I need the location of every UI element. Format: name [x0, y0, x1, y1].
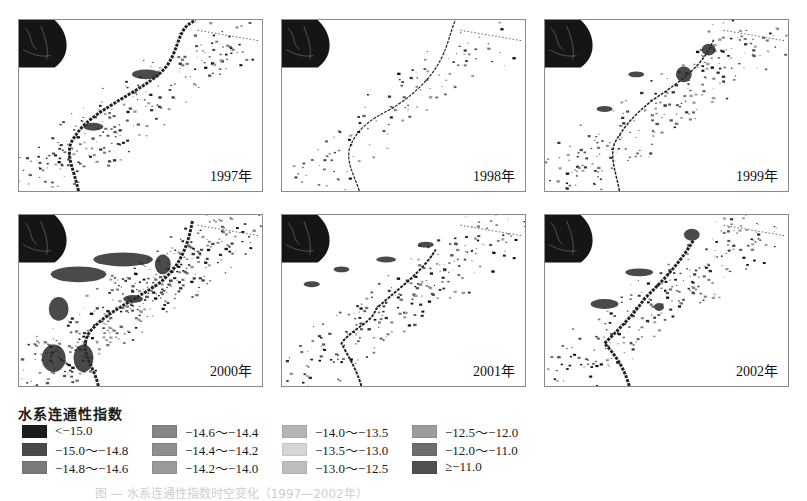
river-channel [349, 20, 456, 191]
legend-item: −13.5～−13.0 [282, 441, 388, 457]
legend-item: −15.0～−14.8 [22, 441, 128, 457]
legend-label: −14.4～−14.2 [185, 440, 258, 459]
legend-swatch [152, 425, 177, 438]
year-label: 2002年 [736, 360, 778, 380]
legend-swatch [22, 425, 47, 438]
legend-label: −14.6～−14.4 [185, 422, 258, 441]
river-channel [613, 40, 714, 191]
river-channel [342, 250, 436, 386]
year-label: 1997年 [210, 165, 252, 185]
legend-swatch [152, 443, 177, 456]
legend-item: −14.4～−14.2 [152, 441, 258, 457]
legend-swatch [282, 425, 307, 438]
legend-label: −15.0～−14.8 [55, 440, 128, 459]
legend-item: −12.5～−12.0 [412, 423, 518, 439]
legend-label: −14.0～−13.5 [315, 422, 388, 441]
legend-item: −13.0～−12.5 [282, 459, 388, 475]
legend-item: <−15.0 [22, 423, 92, 439]
map-panel-2001: 2001年 [281, 214, 526, 387]
map-panel-1997: 1997年 [18, 19, 263, 192]
year-label: 2000年 [210, 360, 252, 380]
upland-region [282, 20, 330, 67]
legend-item: −14.2～−14.0 [152, 459, 258, 475]
legend-item: −12.0～−11.0 [412, 441, 518, 457]
river-channel [85, 220, 192, 386]
legend-swatch [282, 443, 307, 456]
map-panel-1998: 1998年 [281, 19, 526, 192]
year-label: 1999年 [736, 165, 778, 185]
legend: <−15.0−15.0～−14.8−14.8～−14.6−14.6～−14.4−… [22, 423, 542, 477]
legend-label: −14.2～−14.0 [185, 458, 258, 477]
map-panel-2000: 2000年 [18, 214, 263, 387]
legend-label: −13.5～−13.0 [315, 440, 388, 459]
legend-label: <−15.0 [55, 423, 92, 439]
legend-item: −14.0～−13.5 [282, 423, 388, 439]
legend-label: −12.5～−12.0 [445, 422, 518, 441]
figure-caption: 图 — 水系连通性指数时空变化（1997—2002年） [95, 484, 368, 501]
year-label: 1998年 [473, 165, 515, 185]
legend-swatch [22, 443, 47, 456]
legend-swatch [412, 461, 437, 474]
legend-label: −13.0～−12.5 [315, 458, 388, 477]
upland-region [282, 215, 330, 262]
legend-swatch [412, 443, 437, 456]
legend-swatch [282, 461, 307, 474]
map-panel-2002: 2002年 [544, 214, 789, 387]
legend-label: −14.8～−14.6 [55, 458, 128, 477]
upland-region [19, 215, 67, 262]
map-panel-1999: 1999年 [544, 19, 789, 192]
legend-swatch [152, 461, 177, 474]
legend-title: 水系连通性指数 [18, 403, 123, 423]
year-label: 2001年 [473, 360, 515, 380]
legend-item: −14.6～−14.4 [152, 423, 258, 439]
upland-region [545, 215, 593, 262]
legend-swatch [22, 461, 47, 474]
legend-label: −12.0～−11.0 [445, 440, 518, 459]
river-channel [69, 20, 195, 191]
legend-label: ≥−11.0 [445, 459, 482, 475]
river-channel [605, 240, 694, 386]
legend-item: −14.8～−14.6 [22, 459, 128, 475]
legend-swatch [412, 425, 437, 438]
legend-item: ≥−11.0 [412, 459, 482, 475]
upland-region [545, 20, 593, 67]
upland-region [19, 20, 67, 67]
